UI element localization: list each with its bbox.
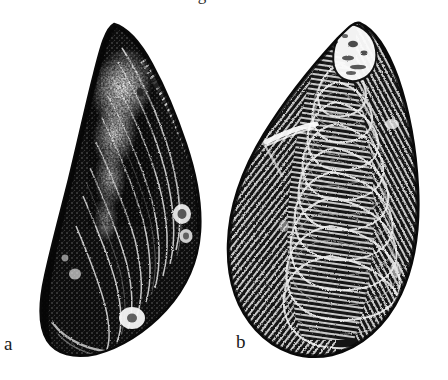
cropped-caption-glyph: g (188, 0, 216, 4)
specimen-b-svg (224, 20, 426, 360)
panel-label-a: a (4, 334, 12, 353)
specimen-image-a (36, 22, 212, 360)
specimen-image-b (224, 20, 426, 360)
panel-label-b: b (236, 332, 246, 351)
specimen-a-svg (36, 22, 212, 360)
cropped-caption-glyph-text: g (188, 0, 216, 3)
figure-plate: g (0, 0, 448, 380)
